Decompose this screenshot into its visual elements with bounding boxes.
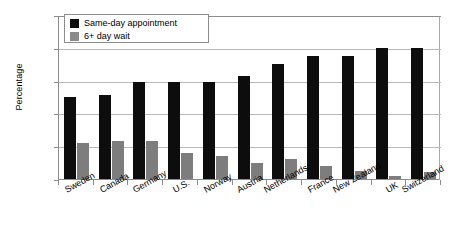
bar	[99, 95, 111, 179]
bar-group	[337, 15, 372, 179]
bar-group	[233, 15, 268, 179]
y-tick-mark	[54, 49, 58, 50]
bar	[168, 82, 180, 179]
bar	[389, 176, 401, 179]
bar	[133, 82, 145, 179]
y-axis-title: Percentage	[14, 37, 24, 137]
bar	[203, 82, 215, 179]
bar-group	[267, 15, 302, 179]
legend-swatch-icon	[70, 32, 79, 41]
y-tick-mark	[54, 114, 58, 115]
legend-item-label: 6+ day wait	[84, 31, 130, 41]
bar	[272, 64, 284, 179]
x-axis-label: UK	[384, 180, 400, 195]
legend-item: Same-day appointment	[70, 17, 208, 29]
chart-legend: Same-day appointment 6+ day wait	[64, 14, 209, 43]
x-axis-label: U.S.	[171, 178, 191, 195]
bar-chart: Percentage 0%20%40%60%80%100% SwedenCana…	[0, 0, 453, 234]
x-axis-labels: SwedenCanadaGermanyU.S.NorwayAustriaNeth…	[58, 180, 440, 234]
y-tick-mark	[54, 147, 58, 148]
legend-swatch-icon	[70, 19, 79, 28]
bar	[307, 56, 319, 179]
bar	[411, 48, 423, 179]
legend-item: 6+ day wait	[70, 30, 208, 42]
bar	[342, 56, 354, 179]
bar	[64, 97, 76, 179]
bar-group	[406, 15, 441, 179]
legend-item-label: Same-day appointment	[84, 18, 177, 28]
bar	[181, 153, 193, 179]
bar	[238, 76, 250, 179]
y-tick-mark	[54, 82, 58, 83]
bar-group	[302, 15, 337, 179]
bar	[376, 48, 388, 179]
bar-group	[372, 15, 407, 179]
y-tick-mark	[54, 16, 58, 17]
x-tick-mark	[440, 180, 441, 185]
